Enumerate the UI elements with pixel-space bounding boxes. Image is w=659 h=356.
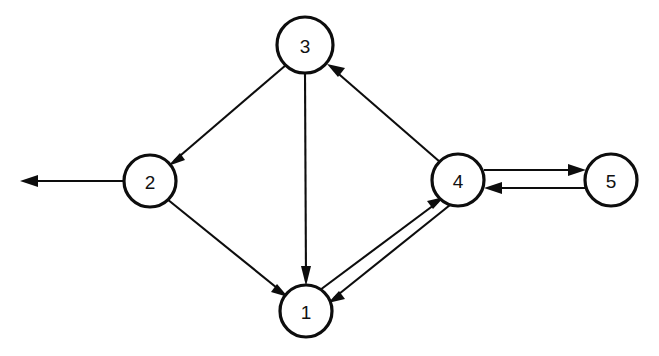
arrowhead-2-to-external <box>20 175 38 187</box>
node-2[interactable]: 2 <box>124 155 176 207</box>
edge-4-to-5 <box>484 164 586 176</box>
node-4[interactable]: 4 <box>432 154 484 206</box>
edge-1-to-4 <box>320 197 444 290</box>
edge-3-to-1 <box>301 73 311 286</box>
diagram-canvas: 3 2 4 5 1 <box>0 0 659 356</box>
node-4-label: 4 <box>453 171 464 192</box>
node-5-label: 5 <box>606 171 617 192</box>
arrowhead-3-to-1 <box>301 266 311 286</box>
edge-2-to-1 <box>167 199 288 297</box>
node-2-label: 2 <box>145 172 156 193</box>
arrowhead-4-to-5 <box>568 164 586 176</box>
node-1-label: 1 <box>301 302 312 323</box>
edge-line-3-2 <box>174 65 286 161</box>
node-3[interactable]: 3 <box>277 17 333 73</box>
edge-line-3-1 <box>305 73 306 281</box>
node-1[interactable]: 1 <box>280 285 332 337</box>
arrowhead-5-to-4 <box>484 182 502 194</box>
arrowhead-4-to-3 <box>327 64 345 77</box>
edge-line-4-1 <box>334 205 450 298</box>
edge-2-to-external <box>20 175 124 187</box>
edge-line-4-3 <box>333 69 440 162</box>
node-3-label: 3 <box>300 36 311 57</box>
edge-4-to-3 <box>327 64 440 162</box>
edge-line-2-1 <box>167 199 282 292</box>
edge-line-1-4 <box>320 202 438 290</box>
directed-graph: 3 2 4 5 1 <box>0 0 659 356</box>
edge-3-to-2 <box>168 65 286 166</box>
edge-5-to-4 <box>484 182 586 194</box>
edge-4-to-1 <box>328 205 450 303</box>
node-5[interactable]: 5 <box>585 154 637 206</box>
